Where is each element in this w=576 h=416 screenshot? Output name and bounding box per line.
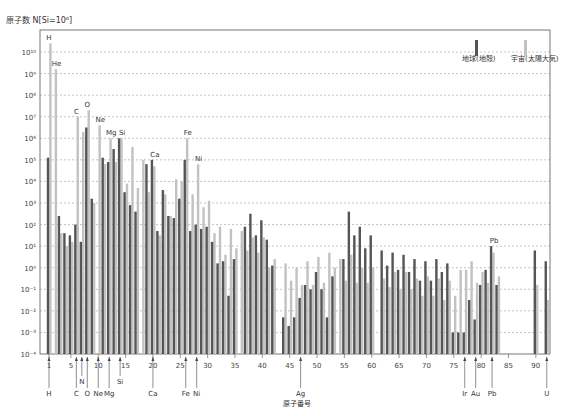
x-tick-label: 55	[340, 362, 349, 370]
bar-cosmic	[361, 268, 363, 354]
arrow-icon	[151, 357, 154, 361]
bar-earth	[129, 205, 131, 354]
bar-earth	[457, 332, 459, 354]
element-marker-label: Si	[117, 378, 123, 386]
bar-label: Mg	[106, 129, 116, 137]
bar-earth	[452, 332, 454, 354]
bar-earth	[342, 259, 344, 354]
x-tick-label: 50	[313, 362, 322, 370]
bar-cosmic	[197, 164, 199, 354]
bar-cosmic	[148, 192, 150, 354]
bar-earth	[473, 319, 475, 354]
bar-earth	[112, 149, 114, 354]
bar-cosmic	[180, 181, 182, 354]
bar-cosmic	[399, 289, 401, 354]
bar-earth	[134, 212, 136, 354]
element-marker-label: Fe	[182, 390, 190, 398]
bar-label: O	[85, 101, 91, 109]
y-tick-label: 10⁶	[24, 135, 36, 143]
bar-earth	[309, 289, 311, 354]
bar-cosmic	[366, 283, 368, 354]
bar-label: Ca	[150, 151, 159, 159]
bar-cosmic	[98, 125, 100, 354]
bar-earth	[255, 235, 257, 354]
bar-earth	[293, 317, 295, 354]
bar-earth	[380, 250, 382, 354]
bar-label: Ne	[95, 116, 105, 124]
bar-cosmic	[459, 270, 461, 354]
bar-cosmic	[109, 138, 111, 354]
bar-earth	[326, 317, 328, 354]
arrow-icon	[86, 357, 89, 361]
bar-cosmic	[268, 268, 270, 354]
bar-earth	[244, 227, 246, 354]
bar-earth	[413, 259, 415, 354]
bar-cosmic	[153, 166, 155, 354]
bar-earth	[145, 164, 147, 354]
arrow-icon	[474, 357, 477, 361]
bar-label: Si	[119, 129, 125, 137]
bar-earth	[200, 229, 202, 354]
arrow-icon	[545, 357, 548, 361]
bar-earth	[402, 255, 404, 354]
bar-cosmic	[49, 43, 51, 354]
bar-earth	[184, 160, 186, 354]
bar-earth	[47, 158, 49, 354]
element-marker-label: Ne	[93, 390, 103, 398]
x-tick-label: 70	[422, 362, 431, 370]
bar-earth	[249, 214, 251, 354]
bar-cosmic	[476, 283, 478, 354]
bar-cosmic	[290, 281, 292, 354]
bar-earth	[370, 235, 372, 354]
element-marker-label: O	[85, 390, 91, 398]
bar-cosmic	[246, 250, 248, 354]
y-tick-label: 10³	[24, 200, 36, 208]
bar-earth	[91, 199, 93, 354]
bar-cosmic	[328, 253, 330, 354]
bar-earth	[156, 231, 158, 354]
bar-cosmic	[252, 238, 254, 354]
bar-cosmic	[104, 164, 106, 354]
element-marker-label: Au	[471, 390, 480, 398]
bar-cosmic	[186, 138, 188, 354]
bar-cosmic	[120, 138, 122, 354]
bar-label: Fe	[184, 129, 192, 137]
bar-earth	[85, 128, 87, 355]
bar-cosmic	[465, 270, 467, 354]
bar-cosmic	[219, 227, 221, 354]
arrow-icon	[75, 357, 78, 361]
element-marker-label: Pb	[488, 390, 497, 398]
bar-earth	[430, 281, 432, 354]
bar-earth	[463, 332, 465, 354]
bar-earth	[123, 192, 125, 354]
bar-earth	[484, 270, 486, 354]
bar-earth	[271, 266, 273, 354]
y-tick-label: 10⁻⁴	[21, 351, 37, 359]
bar-earth	[315, 272, 317, 354]
bar-cosmic	[77, 117, 79, 354]
bar-earth	[58, 216, 60, 354]
bar-earth	[534, 250, 536, 354]
arrow-icon	[491, 357, 494, 361]
bar-cosmic	[481, 272, 483, 354]
arrow-icon	[97, 357, 100, 361]
bar-earth	[233, 259, 235, 354]
bar-cosmic	[71, 242, 73, 354]
element-marker-label: Ca	[148, 390, 157, 398]
bar-cosmic	[416, 279, 418, 355]
bar-cosmic	[213, 233, 215, 354]
bar-cosmic	[405, 272, 407, 354]
y-tick-label: 10⁹	[24, 71, 36, 79]
bar-earth	[435, 259, 437, 354]
y-tick-label: 10¹	[24, 243, 36, 251]
bar-earth	[386, 266, 388, 354]
element-marker-label: Ni	[193, 390, 200, 398]
legend-label-earth: 地球(地殻)	[462, 53, 495, 63]
bar-cosmic	[295, 268, 297, 354]
bar-cosmic	[350, 255, 352, 354]
bar-cosmic	[339, 259, 341, 354]
bar-earth	[408, 272, 410, 354]
element-marker-label: Ag	[296, 390, 305, 398]
bar-cosmic	[224, 255, 226, 354]
bar-cosmic	[454, 296, 456, 354]
